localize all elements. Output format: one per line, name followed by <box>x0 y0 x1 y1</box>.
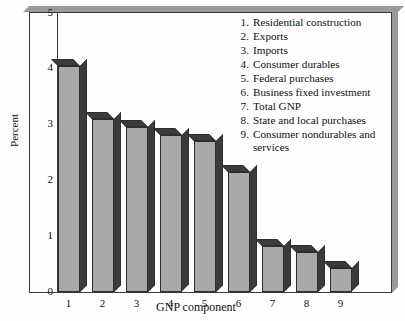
legend-item-8: 8.State and local purchases <box>236 114 386 128</box>
bar-front-2 <box>92 119 114 292</box>
bar-top-7 <box>255 239 284 246</box>
legend-item-7: 7.Total GNP <box>236 100 386 114</box>
legend-number-7: 7. <box>236 100 249 114</box>
bar-3 <box>126 12 155 292</box>
legend-item-9: 9.Consumer nondurables and services <box>236 128 386 155</box>
y-tick-label-0: 0 <box>29 286 53 297</box>
legend-label-3: Imports <box>253 44 386 58</box>
legend-number-6: 6. <box>236 86 249 100</box>
legend-label-8: State and local purchases <box>253 114 386 128</box>
legend-item-1: 1.Residential construction <box>236 16 386 30</box>
bar-front-1 <box>58 66 80 292</box>
legend-item-3: 3.Imports <box>236 44 386 58</box>
y-tick-label-4: 4 <box>29 62 53 73</box>
y-tick-label-5: 5 <box>29 7 53 18</box>
y-tick-label-3: 3 <box>29 118 53 129</box>
legend-label-4: Consumer durables <box>253 58 386 72</box>
bar-side-2 <box>114 112 121 292</box>
legend-item-5: 5.Federal purchases <box>236 72 386 86</box>
bar-side-4 <box>182 128 189 291</box>
bar-4 <box>160 12 189 292</box>
bar-front-4 <box>160 135 182 291</box>
bar-front-7 <box>262 246 284 292</box>
legend-label-6: Business fixed investment <box>253 86 386 100</box>
legend-item-4: 4.Consumer durables <box>236 58 386 72</box>
legend-number-2: 2. <box>236 30 249 44</box>
x-axis-line <box>29 292 392 293</box>
legend-number-4: 4. <box>236 58 249 72</box>
legend-number-5: 5. <box>236 72 249 86</box>
y-axis-label: Percent <box>9 114 20 147</box>
legend-label-7: Total GNP <box>253 100 386 114</box>
y-tick-label-1: 1 <box>29 230 53 241</box>
bar-front-6 <box>228 172 250 292</box>
legend-number-1: 1. <box>236 16 249 30</box>
legend-item-2: 2.Exports <box>236 30 386 44</box>
bar-top-9 <box>323 261 352 268</box>
legend-label-1: Residential construction <box>253 16 386 30</box>
bar-top-8 <box>289 245 318 252</box>
bar-side-5 <box>216 134 223 292</box>
legend-number-8: 8. <box>236 114 249 128</box>
x-axis-label: GNP component <box>0 301 392 313</box>
bar-front-9 <box>330 268 352 291</box>
legend-label-2: Exports <box>253 30 386 44</box>
legend-number-9: 9. <box>236 128 249 142</box>
bar-top-6 <box>221 165 250 172</box>
bar-top-5 <box>187 134 216 141</box>
chart-figure: 012345 123456789 Percent GNP component 1… <box>0 0 405 321</box>
legend-number-3: 3. <box>236 44 249 58</box>
bar-front-3 <box>126 127 148 292</box>
bar-top-3 <box>119 120 148 127</box>
bar-1 <box>58 12 87 292</box>
y-tick-label-2: 2 <box>29 174 53 185</box>
bar-2 <box>92 12 121 292</box>
bar-front-8 <box>296 252 318 292</box>
bar-top-2 <box>85 112 114 119</box>
bar-side-7 <box>284 239 291 292</box>
frame-right-bevel <box>392 6 398 293</box>
legend: 1.Residential construction2.Exports3.Imp… <box>236 16 386 155</box>
bar-side-1 <box>80 59 87 292</box>
bar-side-9 <box>352 261 359 291</box>
bar-side-3 <box>148 120 155 292</box>
legend-label-5: Federal purchases <box>253 72 386 86</box>
bar-front-5 <box>194 141 216 292</box>
bar-top-1 <box>51 59 80 66</box>
legend-item-6: 6.Business fixed investment <box>236 86 386 100</box>
bar-top-4 <box>153 128 182 135</box>
legend-label-9: Consumer nondurables and services <box>253 128 386 155</box>
bar-5 <box>194 12 223 292</box>
bar-side-6 <box>250 165 257 292</box>
